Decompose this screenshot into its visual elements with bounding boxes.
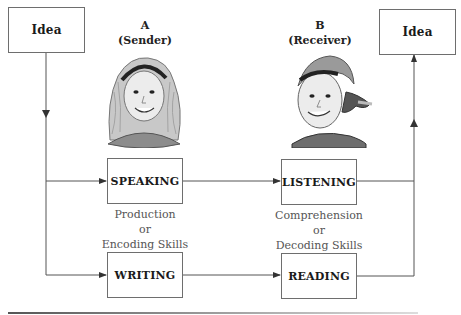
receiver-skills-label: Comprehension or Decoding Skills	[264, 208, 374, 253]
receiver-role: (Receiver)	[280, 33, 360, 48]
girl-face-icon	[104, 52, 184, 148]
boy-face-icon	[286, 54, 374, 148]
sender-letter: A	[110, 18, 180, 33]
speaking-box: SPEAKING	[107, 158, 183, 204]
receiver-skills-line1: Comprehension	[264, 208, 374, 223]
receiver-letter: B	[280, 18, 360, 33]
writing-box: WRITING	[107, 252, 183, 298]
reading-label: READING	[288, 270, 350, 283]
sender-skills-line3: Encoding Skills	[95, 237, 195, 252]
idea-box-right: Idea	[379, 9, 456, 55]
bottom-rule	[8, 312, 418, 314]
sender-heading: A (Sender)	[110, 18, 180, 48]
sender-role: (Sender)	[110, 33, 180, 48]
speaking-label: SPEAKING	[111, 175, 180, 188]
listening-label: LISTENING	[282, 176, 356, 189]
sender-skills-line1: Production	[95, 207, 195, 222]
receiver-skills-line3: Decoding Skills	[264, 238, 374, 253]
idea-label-right: Idea	[402, 25, 432, 39]
reading-box: READING	[281, 253, 357, 299]
listening-box: LISTENING	[281, 159, 357, 205]
sender-skills-line2: or	[95, 222, 195, 237]
sender-skills-label: Production or Encoding Skills	[95, 207, 195, 252]
receiver-heading: B (Receiver)	[280, 18, 360, 48]
receiver-skills-line2: or	[264, 223, 374, 238]
idea-label-left: Idea	[31, 23, 61, 37]
idea-box-left: Idea	[8, 7, 85, 53]
writing-label: WRITING	[115, 269, 176, 282]
